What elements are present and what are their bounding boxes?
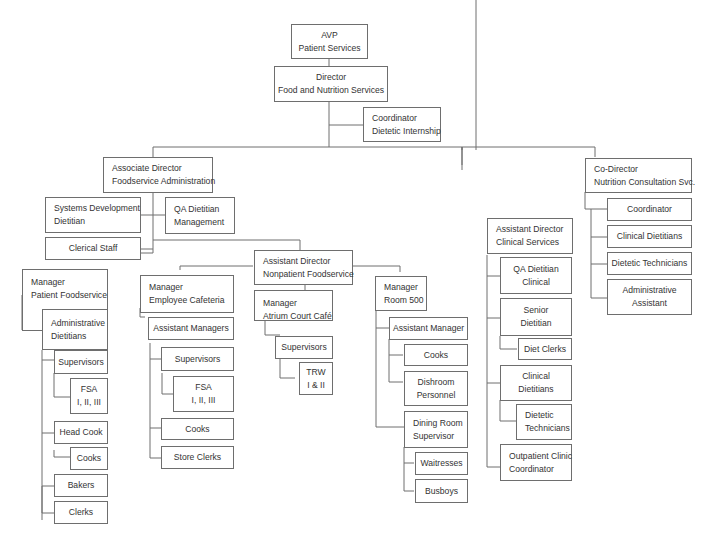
- mgr-atrium-line2: Atrium Court Café: [263, 310, 332, 323]
- mgr-room500-line2: Room 500: [384, 294, 424, 307]
- qa-mgmt-line2: Management: [174, 216, 224, 229]
- avp-dept: Patient Services: [298, 42, 360, 55]
- r5-dishroom-line2: Personnel: [417, 389, 456, 402]
- cs-outpatient-line1: Outpatient Clinic: [509, 450, 572, 463]
- asst-dir-nonpatient-line1: Assistant Director: [263, 255, 330, 268]
- box-cs-outpatient-clinic-coordinator: Outpatient Clinic Coordinator: [500, 444, 572, 481]
- box-pf-supervisors: Supervisors: [54, 350, 108, 374]
- box-nc-coordinator: Coordinator: [607, 198, 692, 221]
- box-cs-dietetic-technicians: Dietetic Technicians: [516, 404, 572, 440]
- box-clerical-staff: Clerical Staff: [45, 237, 141, 260]
- asst-dir-clinical-line1: Assistant Director: [496, 223, 563, 236]
- box-coordinator-dietetic-internship: Coordinator Dietetic Internship: [363, 107, 441, 142]
- asst-dir-clinical-line2: Clinical Services: [496, 236, 559, 249]
- box-ec-store-clerks: Store Clerks: [161, 446, 234, 469]
- pf-clerks-line1: Clerks: [69, 506, 93, 519]
- box-cs-senior-dietitian: Senior Dietitian: [500, 298, 572, 336]
- box-pf-clerks: Clerks: [54, 501, 108, 524]
- clerical-line1: Clerical Staff: [69, 242, 118, 255]
- box-ac-supervisors: Supervisors: [275, 336, 333, 359]
- cs-senior-line1: Senior: [524, 304, 549, 317]
- box-manager-atrium-court-cafe: Manager Atrium Court Café: [254, 290, 333, 321]
- cs-qa-clinical-line1: QA Dietitian: [513, 263, 558, 276]
- nc-dietetic-techs-line1: Dietetic Technicians: [612, 257, 688, 270]
- box-ec-supervisors: Supervisors: [161, 347, 234, 371]
- ac-supervisors-line1: Supervisors: [281, 341, 326, 354]
- box-r5-busboys: Busboys: [415, 479, 468, 503]
- box-pf-cooks: Cooks: [70, 447, 108, 470]
- box-manager-employee-cafeteria: Manager Employee Cafeteria: [140, 275, 234, 313]
- cs-diet-clerks-line1: Diet Clerks: [524, 343, 566, 356]
- nc-coordinator-line1: Coordinator: [627, 203, 672, 216]
- co-director-line1: Co-Director: [594, 163, 638, 176]
- nc-admin-asst-line1: Administrative: [623, 284, 677, 297]
- box-administrative-dietitians: Administrative Dietitians: [42, 309, 108, 350]
- cs-qa-clinical-line2: Clinical: [522, 276, 550, 289]
- box-asst-director-clinical-services: Assistant Director Clinical Services: [487, 218, 573, 254]
- systems-dev-line2: Dietitian: [54, 215, 85, 228]
- systems-dev-line1: Systems Development: [54, 202, 140, 215]
- cs-clinical-dietitians-line2: Dietitians: [518, 383, 553, 396]
- r5-busboys-line1: Busboys: [425, 485, 458, 498]
- coordinator-internship-dept: Dietetic Internship: [372, 125, 441, 138]
- qa-mgmt-line1: QA Dietitian: [174, 203, 219, 216]
- mgr-cafeteria-line1: Manager: [149, 281, 183, 294]
- admin-dietitians-line2: Dietitians: [51, 330, 86, 343]
- ec-fsa-line1: FSA: [195, 381, 212, 394]
- box-ec-assistant-managers: Assistant Managers: [148, 317, 234, 340]
- box-ac-trw: TRW I & II: [299, 362, 333, 395]
- pf-head-cook-line1: Head Cook: [60, 426, 103, 439]
- pf-supervisors-line1: Supervisors: [58, 356, 103, 369]
- nc-admin-asst-line2: Assistant: [632, 297, 667, 310]
- r5-dining-sup-line2: Supervisor: [413, 430, 454, 443]
- box-cs-diet-clerks: Diet Clerks: [518, 338, 572, 360]
- box-nc-clinical-dietitians: Clinical Dietitians: [607, 225, 692, 248]
- mgr-patient-line2: Patient Foodservice: [31, 289, 107, 302]
- cs-dietetic-techs-line1: Dietetic: [525, 409, 554, 422]
- ec-supervisors-line1: Supervisors: [175, 353, 220, 366]
- box-manager-room-500: Manager Room 500: [375, 276, 427, 311]
- cs-outpatient-line2: Coordinator: [509, 463, 554, 476]
- ec-store-clerks-line1: Store Clerks: [174, 451, 221, 464]
- box-pf-bakers: Bakers: [54, 474, 108, 497]
- pf-cooks-line1: Cooks: [77, 452, 101, 465]
- nc-clinical-dietitians-line1: Clinical Dietitians: [617, 230, 682, 243]
- pf-bakers-line1: Bakers: [68, 479, 95, 492]
- box-co-director-nutrition-consultation: Co-Director Nutrition Consultation Svc.: [585, 158, 692, 193]
- avp-title: AVP: [321, 29, 338, 42]
- box-ec-fsa: FSA I, II, III: [173, 376, 234, 412]
- r5-asst-mgr-line1: Assistant Manager: [393, 322, 464, 335]
- cs-senior-line2: Dietitian: [520, 317, 551, 330]
- r5-dining-sup-line1: Dining Room: [413, 417, 463, 430]
- assoc-director-dept: Foodservice Administration: [112, 175, 215, 188]
- box-nc-administrative-assistant: Administrative Assistant: [607, 279, 692, 315]
- ac-trw-line2: I & II: [307, 379, 325, 392]
- ec-asst-mgrs-line1: Assistant Managers: [153, 322, 228, 335]
- box-asst-director-nonpatient-foodservice: Assistant Director Nonpatient Foodservic…: [254, 250, 353, 285]
- co-director-line2: Nutrition Consultation Svc.: [594, 176, 695, 189]
- box-r5-assistant-manager: Assistant Manager: [389, 317, 468, 340]
- box-ec-cooks: Cooks: [161, 418, 234, 440]
- admin-dietitians-line1: Administrative: [51, 317, 105, 330]
- pf-fsa-line2: I, II, III: [77, 396, 101, 409]
- ac-trw-line1: TRW: [306, 366, 325, 379]
- director-dept: Food and Nutrition Services: [278, 84, 384, 97]
- box-qa-dietitian-management: QA Dietitian Management: [165, 197, 235, 234]
- mgr-atrium-line1: Manager: [263, 297, 297, 310]
- ec-fsa-line2: I, II, III: [192, 394, 216, 407]
- box-pf-head-cook: Head Cook: [54, 421, 108, 444]
- box-systems-development-dietitian: Systems Development Dietitian: [45, 197, 141, 233]
- assoc-director-title: Associate Director: [112, 162, 182, 175]
- box-pf-fsa: FSA I, II, III: [70, 378, 108, 414]
- cs-clinical-dietitians-line1: Clinical: [522, 370, 550, 383]
- box-r5-waitresses: Waitresses: [415, 452, 468, 475]
- r5-dishroom-line1: Dishroom: [418, 376, 455, 389]
- box-avp-patient-services: AVP Patient Services: [291, 24, 368, 59]
- mgr-patient-line1: Manager: [31, 276, 65, 289]
- mgr-room500-line1: Manager: [384, 281, 418, 294]
- box-associate-director-foodservice-admin: Associate Director Foodservice Administr…: [103, 157, 213, 193]
- r5-cooks-line1: Cooks: [424, 349, 448, 362]
- r5-waitresses-line1: Waitresses: [420, 457, 462, 470]
- pf-fsa-line1: FSA: [81, 383, 98, 396]
- box-r5-dishroom-personnel: Dishroom Personnel: [404, 371, 468, 406]
